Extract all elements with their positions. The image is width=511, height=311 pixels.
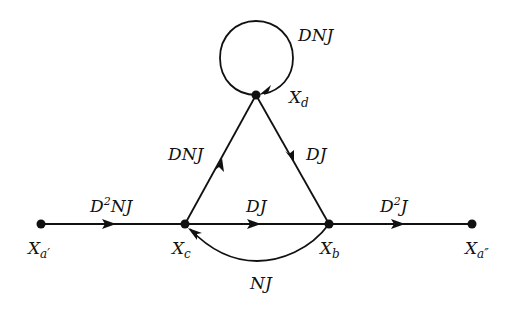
arrow-head-icon bbox=[259, 85, 271, 95]
gain-label-e7: DNJ bbox=[297, 25, 335, 45]
edge-xb-xc bbox=[188, 224, 329, 261]
node-xd bbox=[252, 91, 261, 100]
signal-flow-graph: Xa′ Xc Xb Xa″ Xd D2NJ DJ D2J DNJ DJ NJ D… bbox=[0, 0, 511, 311]
edge-self-loop-xd bbox=[220, 21, 293, 95]
gain-label-e2: DJ bbox=[245, 196, 268, 216]
node-label-xc: Xc bbox=[170, 238, 191, 261]
gain-label-e6: NJ bbox=[249, 273, 273, 293]
gain-label-e3: D2J bbox=[379, 195, 409, 216]
gain-label-e5: DJ bbox=[305, 144, 328, 164]
node-label-xd: Xd bbox=[287, 87, 309, 110]
gain-label-e1: D2NJ bbox=[89, 195, 134, 216]
node-label-xb: Xb bbox=[318, 238, 340, 261]
arrow-head-icon bbox=[285, 150, 294, 162]
node-xa1 bbox=[37, 220, 46, 229]
edge-xc-xb bbox=[185, 219, 329, 229]
edge-xb-xa2 bbox=[329, 219, 472, 229]
gain-label-e4: DNJ bbox=[167, 144, 205, 164]
node-xb bbox=[325, 220, 334, 229]
node-label-xa2: Xa″ bbox=[463, 238, 489, 261]
node-label-xa1: Xa′ bbox=[26, 238, 50, 261]
edge-xa1-xc bbox=[41, 219, 185, 229]
node-xc bbox=[181, 220, 190, 229]
node-xa2 bbox=[468, 220, 477, 229]
